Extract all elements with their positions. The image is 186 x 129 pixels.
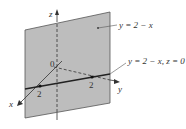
y-intercept-point	[90, 75, 93, 78]
x-intercept-label: 2	[37, 89, 42, 99]
trace-label-leader	[110, 63, 126, 74]
y-axis-label: y	[117, 84, 122, 94]
z-axis-label: z	[48, 9, 53, 19]
3d-plane-diagram: z y x 0 2 2 y = 2 − x y = 2 − x, z = 0	[0, 0, 186, 129]
x-intercept-point	[38, 84, 41, 87]
y-intercept-label: 2	[89, 80, 94, 90]
trace-equation-label: y = 2 − x, z = 0	[127, 56, 185, 66]
plane-label-leader-dot	[97, 27, 99, 29]
origin-label: 0	[50, 59, 55, 69]
z-axis-arrow-icon	[55, 9, 59, 15]
x-axis-label: x	[8, 99, 13, 109]
plane-equation-label: y = 2 − x	[118, 20, 153, 30]
